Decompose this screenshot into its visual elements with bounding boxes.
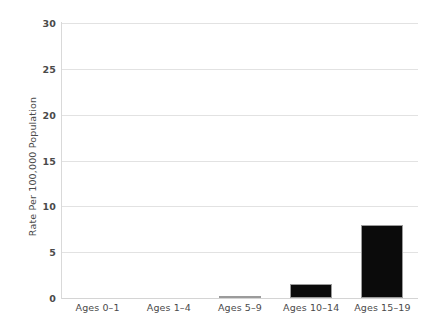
x-axis-tick-label: Ages 10–14	[276, 302, 347, 322]
bar[interactable]	[290, 284, 332, 298]
bar-slot	[347, 23, 418, 298]
x-axis-tick-label: Ages 15–19	[347, 302, 418, 322]
y-axis-tick-label: 25	[30, 63, 56, 74]
bar-slot	[204, 23, 275, 298]
bar-slot	[62, 23, 133, 298]
x-axis-tick-label: Ages 0–1	[62, 302, 133, 322]
y-axis-tick-label: 10	[30, 201, 56, 212]
y-axis-tick-label: 0	[30, 293, 56, 304]
bar-slot	[133, 23, 204, 298]
bar[interactable]	[361, 225, 403, 298]
x-axis-tick-label: Ages 1–4	[133, 302, 204, 322]
y-axis-tick-label: 5	[30, 247, 56, 258]
bar[interactable]	[219, 296, 261, 298]
bar-chart: Rate Per 100,000 Population 051015202530…	[0, 0, 441, 333]
gridline	[62, 298, 418, 299]
bar-slot	[276, 23, 347, 298]
bars-layer	[62, 23, 418, 298]
y-axis-tick-label: 15	[30, 155, 56, 166]
x-axis-tick-label: Ages 5–9	[204, 302, 275, 322]
x-axis-tick-labels: Ages 0–1Ages 1–4Ages 5–9Ages 10–14Ages 1…	[62, 302, 418, 322]
y-axis-tick-label: 30	[30, 18, 56, 29]
y-axis-tick-label: 20	[30, 109, 56, 120]
y-axis-tick-labels: 051015202530	[30, 23, 56, 298]
